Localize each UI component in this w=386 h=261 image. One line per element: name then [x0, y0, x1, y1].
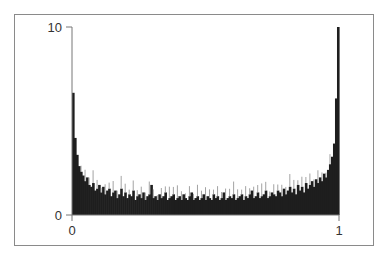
y-tick-label-top: 10 — [48, 20, 62, 35]
histogram-chart: 10 0 0 1 — [0, 0, 386, 261]
x-tick-label-left: 0 — [68, 223, 75, 238]
histogram-bars — [72, 27, 340, 215]
y-tick-label-bottom: 0 — [55, 208, 62, 223]
x-tick-label-right: 1 — [335, 223, 342, 238]
